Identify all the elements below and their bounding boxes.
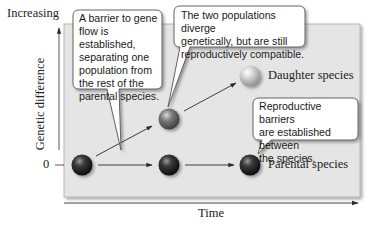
x-axis-title: Time (198, 206, 224, 221)
callout-line: flow is established, (79, 25, 161, 51)
sphere-parental-t2 (240, 155, 261, 176)
callout-line: parental species. (79, 90, 161, 103)
y-axis-title: Genetic difference (33, 58, 48, 150)
callout-line: reproductively compatible. (181, 48, 305, 61)
y-axis-zero-label: 0 (43, 157, 49, 172)
callout-barrier-text: A barrier to gene flow is established, s… (79, 12, 161, 103)
callout-reproductive-text: Reproductive barriers are established be… (259, 100, 359, 165)
daughter-species-label: Daughter species (268, 68, 354, 83)
callout-diverge-text: The two populations diverge genetically,… (181, 9, 305, 61)
callout-line: Reproductive barriers (259, 100, 359, 126)
callout-line: A barrier to gene (79, 12, 161, 25)
sphere-parental-t1 (159, 155, 180, 176)
callout-line: separating one (79, 51, 161, 64)
sphere-parental-t0 (72, 155, 93, 176)
callout-line: are established between (259, 126, 359, 152)
callout-line: the rest of the (79, 77, 161, 90)
sphere-daughter-t2 (240, 66, 261, 87)
y-axis-top-label: Increasing (7, 6, 59, 21)
sphere-daughter-t1 (159, 109, 180, 130)
callout-line: genetically, but are still (181, 35, 305, 48)
callout-line: population from (79, 64, 161, 77)
speciation-diagram: Increasing 0 Genetic difference Time Dau… (0, 0, 372, 226)
callout-line: the species. (259, 152, 359, 165)
callout-line: The two populations diverge (181, 9, 305, 35)
y-axis (55, 28, 64, 165)
